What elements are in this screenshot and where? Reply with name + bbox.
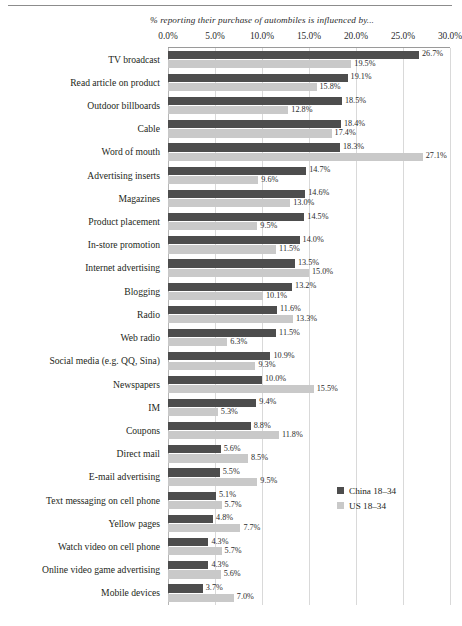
- bar-china: [168, 399, 256, 407]
- bar-us: [168, 362, 255, 370]
- bar-us: [168, 524, 240, 532]
- bar-label-china: 5.5%: [223, 468, 240, 476]
- bar-row: 10.9%9.3%: [168, 350, 450, 373]
- bar-china: [168, 538, 208, 546]
- bar-label-china: 5.1%: [219, 491, 236, 499]
- bar-label-china: 13.5%: [298, 259, 319, 267]
- bar-label-us: 9.3%: [258, 361, 275, 369]
- bar-china: [168, 492, 216, 500]
- bar-label-china: 10.9%: [273, 352, 294, 360]
- bar-us: [168, 478, 257, 486]
- bar-row: 4.8%7.7%: [168, 512, 450, 535]
- bar-label-us: 10.1%: [266, 292, 287, 300]
- category-label: Yellow pages: [0, 518, 164, 529]
- legend-item[interactable]: US 18–34: [337, 499, 447, 512]
- y-axis-category-labels: TV broadcastRead article on productOutdo…: [0, 48, 164, 605]
- bar-label-us: 9.5%: [260, 222, 277, 230]
- bar-row: 4.3%5.6%: [168, 559, 450, 582]
- x-tick-label: 25.0%: [391, 31, 415, 41]
- bar-row: 9.4%5.3%: [168, 396, 450, 419]
- category-label: Radio: [0, 309, 164, 320]
- bar-row: 10.0%15.5%: [168, 373, 450, 396]
- bar-label-china: 13.2%: [295, 282, 316, 290]
- category-label: Social media (e.g. QQ, Sina): [0, 355, 164, 366]
- bar-us: [168, 60, 351, 68]
- bar-china: [168, 190, 305, 198]
- bar-us: [168, 153, 423, 161]
- bar-us: [168, 385, 314, 393]
- bar-row: 14.5%9.5%: [168, 210, 450, 233]
- bar-us: [168, 199, 290, 207]
- category-label: Direct mail: [0, 448, 164, 459]
- bar-label-china: 4.8%: [216, 514, 233, 522]
- bar-row: 26.7%19.5%: [168, 48, 450, 71]
- bar-label-us: 9.6%: [261, 176, 278, 184]
- bar-label-us: 5.3%: [221, 408, 238, 416]
- category-label: Product placement: [0, 216, 164, 227]
- bar-label-us: 11.5%: [279, 245, 300, 253]
- plot-area: 26.7%19.5%19.1%15.8%18.5%12.8%18.4%17.4%…: [168, 48, 450, 605]
- category-label: Online video game advertising: [0, 564, 164, 575]
- bar-row: 14.6%13.0%: [168, 187, 450, 210]
- category-label: Mobile devices: [0, 587, 164, 598]
- bar-china: [168, 561, 208, 569]
- gridline: [450, 48, 451, 605]
- category-label: E-mail advertising: [0, 471, 164, 482]
- category-label: Internet advertising: [0, 262, 164, 273]
- bar-us: [168, 106, 288, 114]
- bar-label-us: 17.4%: [335, 129, 356, 137]
- bar-label-us: 27.1%: [426, 152, 447, 160]
- bar-row: 13.5%15.0%: [168, 257, 450, 280]
- bar-label-us: 19.5%: [354, 60, 375, 68]
- bar-china: [168, 167, 306, 175]
- bar-label-china: 14.6%: [308, 189, 329, 197]
- bar-china: [168, 74, 348, 82]
- x-tick-label: 5.0%: [205, 31, 225, 41]
- category-label: Word of mouth: [0, 146, 164, 157]
- bar-us: [168, 547, 222, 555]
- bar-label-us: 15.8%: [320, 83, 341, 91]
- category-label: Watch video on cell phone: [0, 541, 164, 552]
- bar-row: 3.7%7.0%: [168, 582, 450, 605]
- x-tick-label: 15.0%: [297, 31, 321, 41]
- category-label: Advertising inserts: [0, 170, 164, 181]
- bar-label-us: 12.8%: [291, 106, 312, 114]
- category-label: IM: [0, 402, 164, 413]
- bar-label-us: 8.5%: [251, 454, 268, 462]
- bar-china: [168, 422, 251, 430]
- category-label: Cable: [0, 123, 164, 134]
- bar-china: [168, 352, 270, 360]
- bar-label-us: 7.7%: [243, 524, 260, 532]
- category-label: Read article on product: [0, 77, 164, 88]
- bar-label-china: 11.6%: [280, 305, 301, 313]
- category-label: Magazines: [0, 193, 164, 204]
- bar-label-china: 14.0%: [303, 236, 324, 244]
- bar-label-us: 6.3%: [230, 338, 247, 346]
- bar-label-china: 10.0%: [265, 375, 286, 383]
- bar-row: 18.4%17.4%: [168, 118, 450, 141]
- bar-us: [168, 292, 263, 300]
- bar-label-china: 11.5%: [279, 329, 300, 337]
- bar-label-us: 15.0%: [312, 268, 333, 276]
- bar-china: [168, 259, 295, 267]
- bar-row: 13.2%10.1%: [168, 280, 450, 303]
- bar-label-us: 11.8%: [282, 431, 303, 439]
- bar-us: [168, 129, 332, 137]
- x-axis-tick-labels: 0.0%5.0%10.0%15.0%20.0%25.0%30.0%: [0, 31, 460, 44]
- bar-label-china: 18.5%: [345, 97, 366, 105]
- bar-us: [168, 454, 248, 462]
- bar-label-china: 19.1%: [351, 73, 372, 81]
- legend-item[interactable]: China 18–34: [337, 484, 447, 497]
- bar-label-china: 18.4%: [344, 120, 365, 128]
- category-label: Text messaging on cell phone: [0, 495, 164, 506]
- bar-us: [168, 338, 227, 346]
- bar-row: 11.6%13.3%: [168, 303, 450, 326]
- bar-row: 18.3%27.1%: [168, 141, 450, 164]
- bar-us: [168, 269, 309, 277]
- bar-china: [168, 445, 221, 453]
- bar-us: [168, 83, 317, 91]
- bar-label-china: 14.7%: [309, 166, 330, 174]
- bar-china: [168, 143, 340, 151]
- bar-china: [168, 515, 213, 523]
